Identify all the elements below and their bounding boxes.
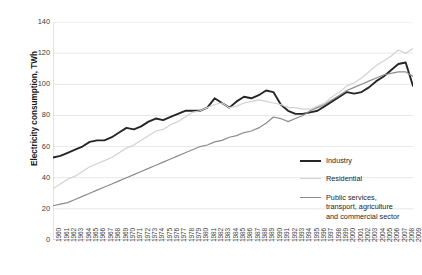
- x-axis-tick-label: 1989: [268, 228, 275, 242]
- x-axis-tick-label: 1981: [210, 228, 217, 242]
- x-axis-tick-label: 1997: [327, 228, 334, 242]
- x-axis-tick-label: 2006: [393, 228, 400, 242]
- legend-swatch-public-services: [300, 197, 321, 198]
- x-axis-tick-label: 2005: [386, 228, 393, 242]
- x-axis-tick-label: 1998: [335, 228, 342, 242]
- x-axis-tick-label: 1964: [85, 228, 92, 242]
- y-axis-tick-label: 140: [20, 17, 50, 26]
- x-axis-tick-label: 1991: [283, 228, 290, 242]
- x-axis-tick-label: 1974: [158, 228, 165, 242]
- x-axis-tick-label: 2009: [415, 228, 422, 242]
- x-axis-tick-label: 1999: [342, 228, 349, 242]
- x-axis-tick-labels: 1960196119621963196419651966196719681969…: [53, 242, 413, 275]
- legend-label-residential: Residential: [326, 174, 362, 183]
- y-axis-tick-label: 60: [20, 142, 50, 151]
- x-axis-tick-label: 2003: [371, 228, 378, 242]
- x-axis-tick-label: 1995: [313, 228, 320, 242]
- legend-item-public-services[interactable]: Public services, transport, agriculture …: [300, 193, 418, 221]
- y-axis-tick-label: 120: [20, 48, 50, 57]
- x-axis-tick-label: 1986: [246, 228, 253, 242]
- x-axis-tick-label: 1971: [136, 228, 143, 242]
- legend-item-residential[interactable]: Residential: [300, 174, 418, 183]
- x-axis-tick-label: 1966: [99, 228, 106, 242]
- legend-item-industry[interactable]: Industry: [300, 156, 418, 165]
- x-axis-tick-label: 1993: [298, 228, 305, 242]
- x-axis-tick-label: 1977: [180, 228, 187, 242]
- y-axis-tick-label: 20: [20, 204, 50, 213]
- x-axis-tick-label: 2004: [379, 228, 386, 242]
- series-line: [53, 62, 413, 157]
- x-axis-tick-label: 1990: [276, 228, 283, 242]
- x-axis-tick-label: 1984: [232, 228, 239, 242]
- chart-legend: Industry Residential Public services, tr…: [300, 156, 418, 230]
- x-axis-tick-label: 1967: [107, 228, 114, 242]
- x-axis-tick-label: 1994: [305, 228, 312, 242]
- x-axis-tick-label: 1985: [239, 228, 246, 242]
- x-axis-tick-label: 1963: [77, 228, 84, 242]
- y-axis-tick-label: 80: [20, 110, 50, 119]
- x-axis-tick-label: 1968: [114, 228, 121, 242]
- y-axis-tick-label: 100: [20, 79, 50, 88]
- legend-swatch-residential: [300, 178, 321, 179]
- x-axis-tick-label: 2002: [364, 228, 371, 242]
- x-axis-tick-label: 1996: [320, 228, 327, 242]
- x-axis-tick-label: 1970: [129, 228, 136, 242]
- x-axis-tick-label: 2001: [357, 228, 364, 242]
- legend-swatch-industry: [300, 160, 321, 162]
- x-axis-tick-label: 2000: [349, 228, 356, 242]
- x-axis-tick-label: 1973: [151, 228, 158, 242]
- x-axis-tick-label: 1972: [144, 228, 151, 242]
- x-axis-tick-label: 2007: [401, 228, 408, 242]
- legend-label-industry: Industry: [326, 156, 352, 165]
- x-axis-tick-label: 1979: [195, 228, 202, 242]
- x-axis-tick-label: 1960: [55, 228, 62, 242]
- x-axis-tick-label: 1982: [217, 228, 224, 242]
- x-axis-tick-label: 1975: [166, 228, 173, 242]
- x-axis-tick-label: 1961: [63, 228, 70, 242]
- x-axis-tick-label: 1980: [202, 228, 209, 242]
- x-axis-tick-label: 1976: [173, 228, 180, 242]
- x-axis-tick-label: 1992: [291, 228, 298, 242]
- legend-label-public-services: Public services, transport, agriculture …: [326, 193, 399, 221]
- x-axis-tick-label: 1978: [188, 228, 195, 242]
- x-axis-tick-label: 1983: [224, 228, 231, 242]
- x-axis-tick-label: 2008: [408, 228, 415, 242]
- x-axis-tick-label: 1969: [122, 228, 129, 242]
- x-axis-tick-label: 1987: [254, 228, 261, 242]
- y-axis-tick-label: 40: [20, 173, 50, 182]
- y-axis-tick-label: 0: [20, 235, 50, 244]
